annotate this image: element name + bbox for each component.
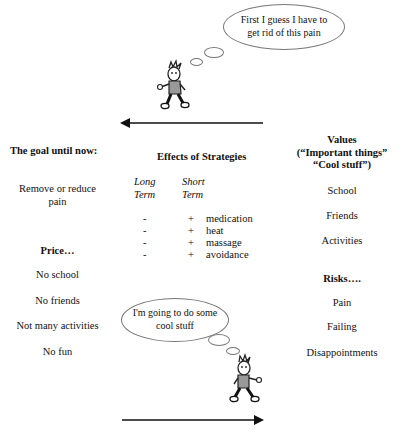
goal-heading: The goal until now: (10, 144, 97, 157)
price-item: No friends (0, 294, 115, 307)
thought-line-1: First I guess I have to (224, 14, 344, 27)
goal-text-line-2: pain (0, 195, 115, 208)
risk-item: Pain (282, 296, 402, 309)
thought-line-2: get rid of this pain (224, 27, 344, 40)
arrow-left-icon (120, 117, 265, 129)
value-item: School (282, 184, 402, 197)
short-label: Short (182, 175, 205, 188)
risk-item: Disappointments (282, 346, 402, 359)
value-item: Friends (282, 209, 402, 222)
arrow-right-icon (120, 414, 265, 426)
price-item: Not many activities (0, 319, 115, 332)
risks-heading: Risks…. (282, 272, 402, 285)
values-subtitle-1: (“Important things” (282, 147, 402, 160)
goal-text-line-1: Remove or reduce (0, 182, 115, 195)
price-item: No fun (0, 345, 115, 358)
short-term-header: Short Term (182, 175, 205, 201)
walking-boy-icon (225, 354, 270, 409)
long-effect: - (143, 248, 147, 261)
walking-boy-icon (155, 60, 205, 115)
strategy-row: - + avoidance (140, 248, 270, 261)
goal-text: Remove or reduce pain (0, 182, 115, 208)
long-term-header: Long Term (134, 175, 156, 201)
term-label: Term (182, 188, 205, 201)
values-title: Values (282, 134, 402, 147)
thought-dot-large (204, 47, 224, 58)
term-label: Term (134, 188, 156, 201)
values-heading: Values (“Important things” “Cool stuff”) (282, 134, 402, 172)
price-heading: Price… (0, 244, 115, 257)
strategy-name: avoidance (206, 248, 249, 261)
value-item: Activities (282, 234, 402, 247)
thought-dot-large (208, 334, 230, 346)
values-subtitle-2: “Cool stuff”) (282, 159, 402, 172)
long-label: Long (134, 175, 156, 188)
thought-bubble-top: First I guess I have to get rid of this … (223, 4, 345, 50)
thought-line-1: I'm going to do some (122, 307, 228, 320)
price-item: No school (0, 268, 115, 281)
thought-line-2: cool stuff (122, 320, 228, 333)
short-effect: + (188, 248, 194, 261)
effects-heading: Effects of Strategies (157, 150, 246, 163)
risk-item: Failing (282, 320, 402, 333)
